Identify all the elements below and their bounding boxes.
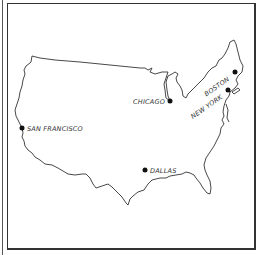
city-label: CHICAGO [133, 98, 165, 106]
city-dallas[interactable]: DALLAS [143, 167, 177, 175]
city-marker-icon [20, 126, 25, 131]
new-jersey-coast-outline [226, 104, 229, 122]
city-marker-icon [168, 99, 173, 104]
us-map: SAN FRANCISCO CHICAGO BOSTON NEW YORK DA… [0, 0, 262, 255]
city-san-francisco[interactable]: SAN FRANCISCO [20, 125, 83, 133]
us-outline [15, 40, 243, 205]
city-boston[interactable]: BOSTON [203, 70, 238, 99]
city-marker-icon [226, 88, 231, 93]
city-label: SAN FRANCISCO [27, 125, 83, 133]
city-marker-icon [143, 168, 148, 173]
city-label: DALLAS [150, 167, 176, 175]
city-marker-icon [233, 70, 238, 75]
